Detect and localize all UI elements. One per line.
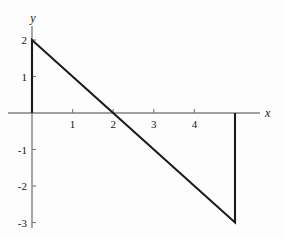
plot-canvas	[0, 0, 284, 239]
y-axis-label: y	[30, 12, 35, 24]
x-axis-label: x	[265, 107, 270, 119]
y-tick-label: -2	[18, 181, 27, 192]
plot-figure: 1234 21-1-2-3 x y	[0, 0, 284, 239]
x-tick-label: 1	[70, 119, 76, 130]
y-tick-label: 2	[22, 35, 28, 46]
y-tick-label: -1	[18, 144, 27, 155]
x-tick-label: 4	[192, 119, 198, 130]
y-tick-label: -3	[18, 217, 27, 228]
x-tick-label: 3	[151, 119, 157, 130]
x-tick-label: 2	[110, 119, 116, 130]
data-series-line	[32, 40, 235, 223]
y-tick-label: 1	[22, 71, 28, 82]
